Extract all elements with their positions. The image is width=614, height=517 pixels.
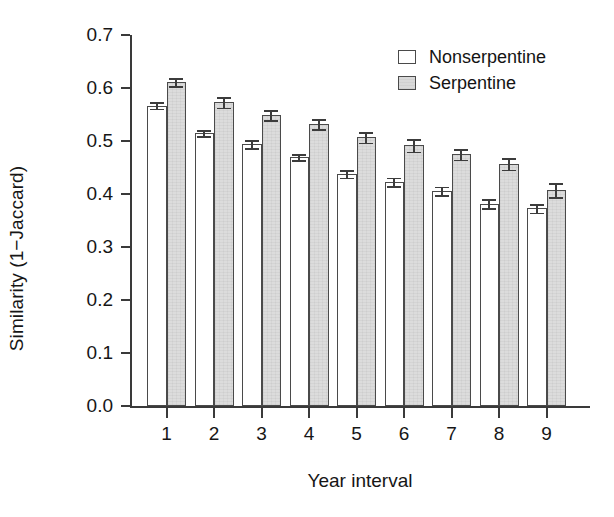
error-bar-cap-upper (530, 204, 544, 206)
error-bar-cap-lower (217, 108, 231, 110)
legend-item-nonserp: Nonserpentine (398, 44, 546, 70)
x-tick-mark (498, 408, 500, 418)
bar-serp-8 (499, 164, 519, 406)
error-bar-cap-lower (197, 136, 211, 138)
y-tick-mark (121, 34, 130, 36)
error-bar-cap-upper (245, 140, 259, 142)
x-tick-label: 9 (532, 424, 562, 443)
error-bar-cap-lower (264, 120, 278, 122)
legend-swatch-icon (398, 50, 416, 64)
error-bar-cap-upper (359, 132, 373, 134)
x-tick-mark (403, 408, 405, 418)
bar-nonserp-8 (480, 204, 500, 406)
x-tick-mark (546, 408, 548, 418)
error-bar-cap-upper (502, 158, 516, 160)
bar-serp-9 (547, 190, 567, 406)
error-bar-line (413, 139, 415, 152)
error-bar-cap-upper (197, 130, 211, 132)
y-tick-label: 0.6 (55, 78, 113, 97)
y-tick-mark (121, 246, 130, 248)
error-bar-cap-lower (387, 186, 401, 188)
error-bar-cap-lower (169, 86, 183, 88)
y-tick-mark (121, 405, 130, 407)
bar-nonserp-4 (290, 157, 310, 406)
bar-serp-6 (404, 145, 424, 406)
error-bar-cap-lower (340, 178, 354, 180)
bar-nonserp-6 (385, 182, 405, 406)
y-tick-mark (121, 193, 130, 195)
error-bar-cap-lower (407, 152, 421, 154)
error-bar-cap-lower (150, 109, 164, 111)
y-tick-label: 0.7 (55, 25, 113, 44)
error-bar-cap-lower (435, 195, 449, 197)
error-bar-cap-upper (482, 199, 496, 201)
error-bar-cap-lower (292, 160, 306, 162)
y-tick-mark (121, 87, 130, 89)
y-tick-mark (121, 140, 130, 142)
error-bar-cap-lower (312, 129, 326, 131)
bar-nonserp-7 (432, 191, 452, 406)
x-tick-label: 6 (389, 424, 419, 443)
legend-item-serp: Serpentine (398, 70, 546, 96)
x-tick-label: 4 (294, 424, 324, 443)
error-bar-cap-upper (217, 97, 231, 99)
x-tick-label: 8 (484, 424, 514, 443)
bar-serp-5 (357, 137, 377, 406)
bar-serp-7 (452, 154, 472, 406)
y-tick-mark (121, 299, 130, 301)
x-tick-label: 2 (199, 424, 229, 443)
y-tick-label: 0.4 (55, 184, 113, 203)
bar-nonserp-2 (195, 133, 215, 406)
x-axis-title: Year interval (130, 470, 590, 492)
x-tick-mark (261, 408, 263, 418)
error-bar-cap-upper (549, 183, 563, 185)
bar-serp-4 (309, 124, 329, 406)
error-bar-cap-upper (169, 78, 183, 80)
error-bar-cap-upper (454, 149, 468, 151)
x-tick-mark (356, 408, 358, 418)
chart-legend: NonserpentineSerpentine (398, 44, 546, 96)
error-bar-cap-lower (549, 197, 563, 199)
y-tick-mark (121, 352, 130, 354)
bar-nonserp-1 (147, 106, 167, 407)
x-tick-label: 3 (247, 424, 277, 443)
bar-chart-figure: Similarity (1−Jaccard) 0.00.10.20.30.40.… (0, 0, 614, 517)
error-bar-line (555, 183, 557, 197)
error-bar-cap-upper (150, 102, 164, 104)
error-bar-cap-lower (454, 160, 468, 162)
error-bar-cap-upper (340, 170, 354, 172)
bar-serp-1 (167, 82, 187, 406)
bar-nonserp-9 (527, 208, 547, 406)
error-bar-cap-upper (387, 178, 401, 180)
y-tick-label: 0.1 (55, 343, 113, 362)
y-tick-label: 0.3 (55, 237, 113, 256)
x-tick-label: 1 (152, 424, 182, 443)
legend-swatch-icon (398, 76, 416, 90)
error-bar-cap-lower (530, 213, 544, 215)
y-tick-label: 0.5 (55, 131, 113, 150)
x-tick-label: 7 (437, 424, 467, 443)
y-tick-label: 0.2 (55, 290, 113, 309)
y-tick-label: 0.0 (55, 396, 113, 415)
x-tick-mark (451, 408, 453, 418)
legend-label: Nonserpentine (429, 47, 546, 68)
legend-label: Serpentine (429, 73, 516, 94)
bar-nonserp-3 (242, 144, 262, 406)
y-axis-title: Similarity (1−Jaccard) (0, 0, 34, 517)
error-bar-cap-upper (407, 139, 421, 141)
bar-serp-3 (262, 115, 282, 406)
x-tick-mark (166, 408, 168, 418)
error-bar-cap-upper (292, 154, 306, 156)
x-tick-label: 5 (342, 424, 372, 443)
error-bar-cap-upper (435, 187, 449, 189)
bar-nonserp-5 (337, 174, 357, 406)
error-bar-cap-lower (482, 208, 496, 210)
error-bar-cap-lower (359, 143, 373, 145)
bar-serp-2 (214, 102, 234, 406)
error-bar-cap-upper (264, 110, 278, 112)
error-bar-cap-lower (245, 148, 259, 150)
x-tick-mark (213, 408, 215, 418)
x-tick-mark (308, 408, 310, 418)
error-bar-cap-upper (312, 119, 326, 121)
error-bar-cap-lower (502, 170, 516, 172)
